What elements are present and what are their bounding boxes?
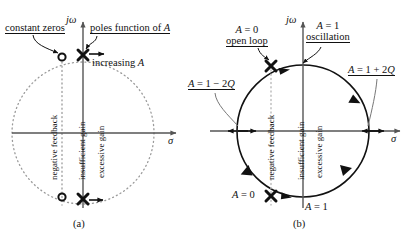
panel-b-leader-1-minus-2q	[215, 93, 238, 126]
panel-a-caption: (a)	[73, 218, 85, 229]
panel-b-1-minus-2q-label: A = 1 − 2Q	[188, 78, 235, 90]
panel-b-oscillation-label: A = 1 oscillation	[306, 20, 350, 43]
panel-b-open-loop-value: 0	[253, 24, 258, 35]
panel-a-insufficient-gain-label: insufficient gain	[78, 121, 87, 180]
panel-b-real-axis-label: σ	[391, 133, 396, 144]
panel-b-leader-open-loop	[258, 48, 269, 60]
panel-b-leader-oscillation	[303, 47, 321, 63]
panel-a-constant-zeros-label: constant zeros	[5, 22, 65, 34]
panel-b-oscillation-line1: A = 1	[306, 20, 350, 31]
panel-a-increasing-a-label: increasing A	[92, 57, 144, 68]
panel-b-caption: (b)	[293, 218, 305, 229]
panel-a-poles-function-var: A	[164, 22, 170, 33]
panel-b-imag-axis-label: jω	[286, 14, 296, 25]
panel-a-increasing-text: increasing	[92, 57, 138, 68]
panel-a-excessive-gain-label: excessive gain	[97, 126, 106, 178]
panel-a-negative-feedback-label: negative feedback	[50, 115, 59, 180]
panel-a-leader-poles-function	[86, 36, 97, 49]
panel-a-poles-function-label: poles function of A	[90, 22, 170, 34]
panel-a-leader-constant-zeros	[33, 35, 58, 53]
panel-a-zero-upper-icon	[58, 53, 65, 60]
panel-b-insufficient-gain-label: insufficient gain	[297, 121, 306, 180]
panel-a-poles-function-text: poles function of	[90, 22, 164, 33]
figure-root-locus: constant zeros poles function of A incre…	[0, 0, 412, 239]
panel-b-open-loop-line1: A = 0	[226, 24, 268, 35]
panel-b-open-loop-label: A = 0 open loop	[226, 24, 268, 47]
panel-a-real-axis-label: σ	[168, 135, 173, 146]
panel-b-oscillation-value: 1	[334, 20, 339, 31]
panel-b-open-loop-line2: open loop	[226, 35, 268, 47]
panel-b-excessive-gain-label: excessive gain	[315, 126, 324, 178]
panel-b-a-equals-0-lower-label: A = 0	[232, 189, 255, 200]
panel-a-imag-axis-label: jω	[66, 14, 76, 25]
panel-b-leader-1-plus-2q	[368, 79, 377, 126]
panel-a-increasing-var: A	[138, 57, 144, 68]
panel-b	[210, 22, 400, 208]
panel-b-a-equals-1-lower-label: A = 1	[305, 201, 328, 212]
panel-b-oscillation-line2: oscillation	[306, 31, 350, 43]
panel-a	[12, 22, 176, 208]
panel-b-1-plus-2q-label: A = 1 + 2Q	[348, 64, 395, 76]
figure-vector-layer	[0, 0, 412, 239]
panel-b-negative-feedback-label: negative feedback	[267, 115, 276, 180]
